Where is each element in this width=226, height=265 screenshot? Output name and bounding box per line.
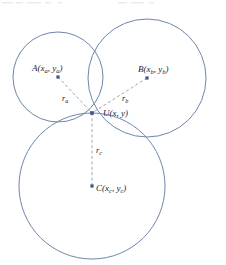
label-point-c: C(xc, yc) [96, 183, 126, 194]
label-point-c-base: C(x [96, 183, 109, 193]
trilateration-figure: A(xa, ya) B(xb, yb) C(xc, yc) U(x, y) ra… [0, 0, 226, 265]
center-dot-c [90, 184, 93, 187]
label-point-a: A(xa, ya) [31, 63, 63, 74]
label-point-a-base: A(x [31, 63, 45, 73]
label-point-c-end: ) [122, 183, 126, 193]
label-point-u: U(x, y) [103, 108, 128, 118]
label-radius-c: rc [96, 145, 102, 156]
label-radius-c-sub: c [99, 150, 102, 156]
label-radius-b-sub: b [125, 98, 128, 104]
label-point-b-base: B(x [138, 64, 151, 74]
label-point-a-end: ) [59, 63, 63, 73]
label-radius-a: ra [62, 93, 68, 104]
label-point-b-mid: , y [154, 64, 163, 74]
label-radius-a-sub: a [65, 98, 68, 104]
geometry-diagram-canvas: A(xa, ya) B(xb, yb) C(xc, yc) U(x, y) ra… [0, 0, 226, 265]
intersection-dot-u [90, 111, 94, 115]
scan-artifact-group [2, 2, 154, 3]
label-radius-b: rb [122, 93, 128, 104]
label-point-c-mid: , y [112, 183, 121, 193]
label-point-a-mid: , y [48, 63, 57, 73]
center-dot-b [145, 76, 148, 79]
label-point-b: B(xb, yb) [138, 64, 169, 75]
center-dot-a [56, 75, 59, 78]
label-point-b-end: ) [165, 64, 169, 74]
